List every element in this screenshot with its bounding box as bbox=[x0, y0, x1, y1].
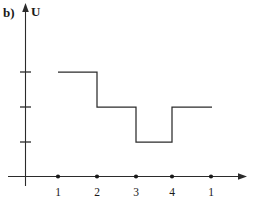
y-axis-title: U bbox=[31, 4, 41, 19]
x-axis-dot bbox=[95, 174, 99, 178]
x-axis-tick-label: 1 bbox=[208, 186, 214, 198]
y-axis-arrow-icon bbox=[22, 3, 29, 12]
figure-container: 1 2 3 4 1 b) U bbox=[0, 0, 257, 205]
x-axis-arrow-icon bbox=[238, 173, 247, 180]
x-axis-dot bbox=[209, 174, 213, 178]
x-axis-tick-label: 2 bbox=[94, 186, 100, 198]
panel-label: b) bbox=[3, 5, 15, 20]
x-axis-dot bbox=[170, 174, 174, 178]
step-waveform-chart: 1 2 3 4 1 b) U bbox=[0, 0, 257, 205]
x-axis-dot bbox=[134, 174, 138, 178]
x-axis-tick-label: 4 bbox=[169, 186, 175, 198]
step-waveform-path bbox=[58, 72, 212, 142]
x-axis-tick-label: 3 bbox=[133, 186, 139, 198]
x-axis-tick-label: 1 bbox=[55, 186, 61, 198]
x-axis-dot bbox=[56, 174, 60, 178]
